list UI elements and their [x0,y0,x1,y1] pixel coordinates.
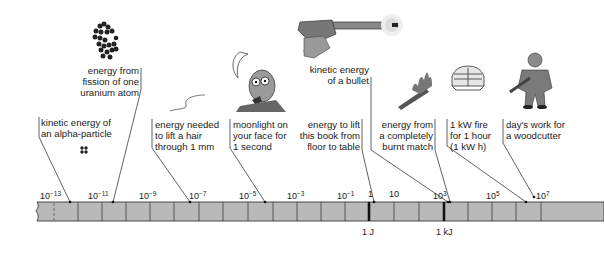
burning-match-icon [398,72,432,110]
unit-label-kilojoule: 1 kJ [436,227,453,237]
annotation-kw-fire: 1 kW fire for 1 hour (1 kW h) [450,119,491,152]
annotation-lift-hair: energy needed to lift a hair through 1 m… [155,119,219,152]
electric-fire-icon [452,66,484,90]
annotation-woodcutter: day's work for a woodcutter [506,119,565,141]
tick-label: 10−3 [287,189,304,201]
energy-scale-bar [36,202,604,221]
alpha-particle-icon [80,146,87,153]
tick-label: 107 [536,189,550,201]
annotation-bullet: kinetic energy of a bullet [300,64,369,86]
tick-label: 10−7 [189,189,206,201]
annotation-burnt-match: energy from a completely burnt match [372,119,433,152]
tick-label: 10 [389,189,399,199]
tick-label: 10−11 [88,189,109,201]
unit-label-joule: 1 J [362,227,374,237]
tick-label: 103 [433,189,447,201]
annotation-uranium-fission: energy from fission of one uranium atom [78,65,139,98]
tick-label: 10−9 [139,189,156,201]
moon-face-icon [233,52,286,112]
annotation-lift-book: energy to lift this book from floor to t… [290,119,360,152]
pistol-icon [298,14,403,58]
annotation-moonlight: moonlight on your face for 1 second [233,119,288,152]
tick-label: 10−13 [40,189,61,201]
uranium-nucleus-icon [93,22,119,60]
annotation-alpha-particle: kinetic energy of an alpha-particle [41,117,112,139]
tick-label: 105 [486,189,500,201]
tick-label: 1 [368,189,373,199]
tick-label: 10−1 [337,189,354,201]
woodcutter-icon [510,53,552,109]
hair-icon [170,95,205,111]
tick-label: 10−5 [239,189,256,201]
